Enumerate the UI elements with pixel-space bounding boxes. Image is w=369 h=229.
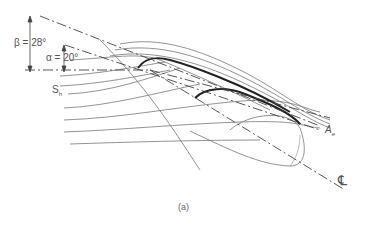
- centerline: [150, 70, 345, 190]
- beta-line: [40, 16, 320, 126]
- sh-label: Sh: [52, 84, 62, 97]
- airfoil-flow-diagram: [0, 0, 369, 229]
- airfoil-lower: [195, 89, 300, 124]
- ae-line: [150, 70, 330, 118]
- alpha-angle-label: α = 20°: [46, 52, 78, 63]
- centerline-symbol: ℄: [338, 172, 347, 188]
- lobe-inner: [290, 135, 300, 166]
- streamline: [68, 68, 180, 94]
- figure-caption: (a): [178, 202, 189, 212]
- streamline: [64, 84, 200, 108]
- streamline: [70, 140, 260, 144]
- streamline: [64, 122, 320, 132]
- beta-angle-label: β = 28°: [14, 37, 46, 48]
- ae-label: Ae: [325, 124, 335, 137]
- streamline: [70, 56, 270, 110]
